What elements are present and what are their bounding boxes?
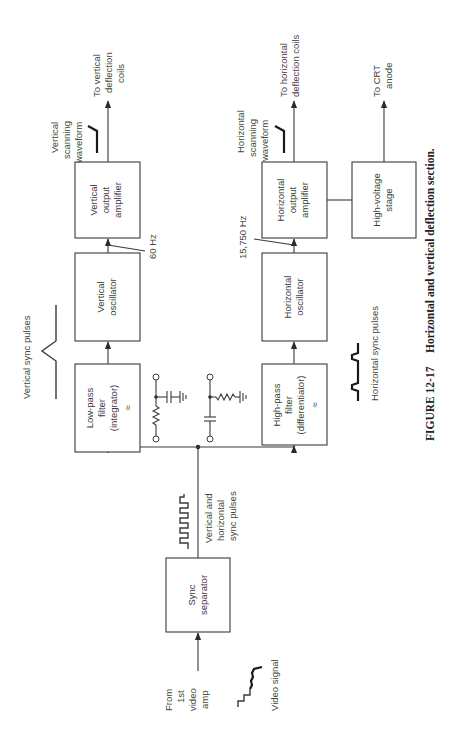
svg-text:≈: ≈ bbox=[122, 405, 133, 410]
combined-sync-waveform-icon bbox=[180, 494, 188, 549]
svg-text:waveform: waveform bbox=[73, 122, 84, 164]
input-source-label: From 1st video amp bbox=[163, 688, 210, 711]
deflection-block-diagram: From 1st video amp Video signal Sync sep… bbox=[0, 0, 456, 729]
svg-text:≈: ≈ bbox=[309, 402, 320, 407]
svg-text:amp: amp bbox=[199, 691, 210, 709]
video-signal-label: Video signal bbox=[269, 659, 280, 711]
to-vertical-coils-label: To vertical deflection coils bbox=[91, 52, 126, 97]
svg-text:Vertical and: Vertical and bbox=[203, 493, 214, 543]
svg-text:video: video bbox=[187, 688, 198, 711]
horizontal-sync-pulses-label: Horizontal sync pulses bbox=[369, 306, 380, 401]
vertical-scanning-waveform-label: Vertical scanning waveform bbox=[49, 121, 84, 164]
svg-text:coils: coils bbox=[115, 64, 126, 83]
svg-text:Vertical: Vertical bbox=[49, 122, 60, 153]
svg-text:amplifier: amplifier bbox=[112, 182, 123, 218]
horizontal-frequency-pointer bbox=[254, 239, 294, 245]
vertical-scanning-waveform-icon bbox=[88, 126, 97, 153]
svg-text:From: From bbox=[163, 689, 174, 711]
vertical-sync-waveform-icon bbox=[42, 305, 56, 399]
svg-text:anode: anode bbox=[383, 63, 394, 89]
svg-text:amplifier: amplifier bbox=[299, 182, 310, 218]
svg-text:separator: separator bbox=[198, 575, 209, 615]
svg-text:deflection: deflection bbox=[103, 52, 114, 93]
figure-title: Horizontal and vertical deflection secti… bbox=[424, 148, 436, 353]
svg-text:sync pulses: sync pulses bbox=[227, 491, 238, 541]
svg-text:To vertical: To vertical bbox=[91, 54, 102, 97]
svg-text:To CRT: To CRT bbox=[371, 65, 382, 97]
diagram-stage: From 1st video amp Video signal Sync sep… bbox=[0, 0, 456, 729]
svg-text:scanning: scanning bbox=[247, 119, 258, 157]
svg-text:filter: filter bbox=[283, 396, 294, 414]
vertical-output-amplifier-label: Vertical bbox=[88, 184, 99, 215]
horizontal-scanning-waveform-label: Horizontal scanning waveform bbox=[235, 110, 270, 162]
svg-text:filter: filter bbox=[96, 399, 107, 417]
svg-text:horizontal: horizontal bbox=[215, 500, 226, 541]
horizontal-oscillator-label: Horizontal bbox=[282, 276, 293, 319]
high-voltage-stage-label: High-voltage bbox=[371, 173, 382, 226]
vertical-sync-pulses-label: Vertical sync pulses bbox=[21, 315, 32, 399]
horizontal-sync-waveform-icon bbox=[352, 343, 358, 401]
svg-text:stage: stage bbox=[383, 188, 394, 211]
differentiator-rc-circuit-icon bbox=[204, 374, 246, 442]
sync-separator-label: Sync bbox=[186, 584, 197, 605]
horizontal-output-amplifier-label: Horizontal bbox=[275, 179, 286, 222]
svg-text:Horizontal: Horizontal bbox=[235, 110, 246, 153]
video-signal-waveform-icon bbox=[238, 667, 262, 707]
svg-text:output: output bbox=[287, 186, 298, 213]
svg-text:oscillator: oscillator bbox=[294, 278, 305, 316]
svg-text:To horizontal: To horizontal bbox=[278, 43, 289, 97]
horizontal-scanning-waveform-icon bbox=[275, 126, 284, 153]
to-horizontal-coils-label: To horizontal deflection coils bbox=[278, 34, 301, 97]
figure-number: FIGURE 12-17 bbox=[424, 366, 436, 441]
high-pass-filter-label: High-pass bbox=[271, 383, 282, 426]
svg-text:waveform: waveform bbox=[259, 120, 270, 162]
low-pass-filter-label: Low-pass bbox=[84, 387, 95, 428]
vertical-oscillator-label: Vertical bbox=[95, 281, 106, 312]
svg-text:oscillator: oscillator bbox=[107, 278, 118, 316]
horizontal-frequency-label: 15,750 Hz bbox=[237, 215, 248, 259]
combined-sync-label: Vertical and horizontal sync pulses bbox=[203, 491, 238, 543]
svg-text:output: output bbox=[100, 186, 111, 213]
vertical-frequency-label: 60 Hz bbox=[147, 234, 158, 259]
integrator-rc-circuit-icon bbox=[153, 374, 186, 442]
svg-text:(differentiator): (differentiator) bbox=[295, 376, 306, 435]
to-crt-anode-label: To CRT anode bbox=[371, 63, 394, 97]
svg-text:1st: 1st bbox=[175, 690, 186, 703]
svg-text:(integrator): (integrator) bbox=[108, 385, 119, 431]
svg-text:deflection coils: deflection coils bbox=[290, 34, 301, 97]
svg-text:scanning: scanning bbox=[61, 121, 72, 159]
vertical-frequency-pointer bbox=[108, 245, 145, 251]
